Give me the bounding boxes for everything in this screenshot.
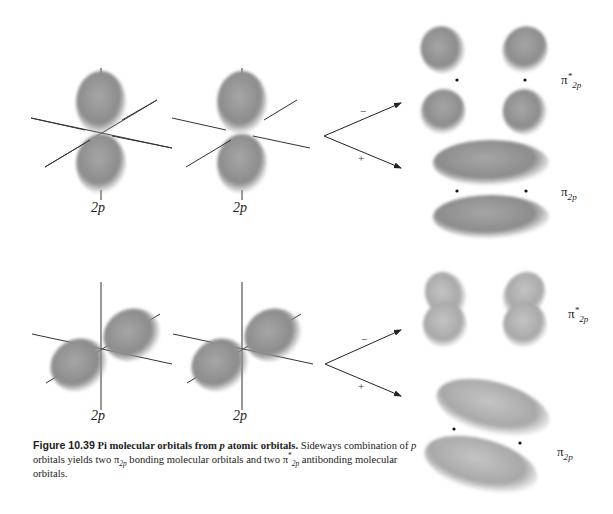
bottom-bonding-mo	[418, 368, 556, 505]
figure-title: Pi molecular orbitals from p atomic orbi…	[97, 440, 298, 451]
top-atomic-orbital-2	[172, 68, 310, 200]
top-atomic-orbital-1	[31, 68, 172, 200]
bottom-bonding-label: π2p	[557, 444, 573, 460]
bottom-atomic-label-1: 2p	[91, 408, 105, 424]
top-atomic-label-2: 2p	[233, 200, 247, 216]
top-atomic-label-1: 2p	[91, 200, 105, 216]
pi-orbital-diagram	[0, 0, 613, 514]
top-plus-sign: +	[358, 152, 364, 164]
figure-number: Figure 10.39	[33, 439, 95, 451]
top-bonding-mo	[433, 140, 549, 239]
top-antibonding-label: π*2p	[561, 72, 581, 88]
top-bonding-label: π2p	[561, 184, 577, 200]
top-antibonding-mo	[413, 19, 555, 142]
caption-lead: Sideways combination of	[301, 440, 409, 451]
bottom-antibonding-mo	[417, 264, 554, 348]
figure-caption: Figure 10.39 Pi molecular orbitals from …	[33, 438, 433, 481]
bottom-atomic-orbital-1	[32, 282, 172, 410]
top-minus-sign: −	[360, 105, 366, 117]
bottom-atomic-orbital-2	[173, 282, 313, 410]
bottom-antibonding-label: π*2p	[568, 306, 588, 322]
bottom-atomic-label-2: 2p	[233, 408, 247, 424]
bottom-plus-sign: +	[358, 380, 364, 392]
bottom-minus-sign: −	[361, 333, 367, 345]
